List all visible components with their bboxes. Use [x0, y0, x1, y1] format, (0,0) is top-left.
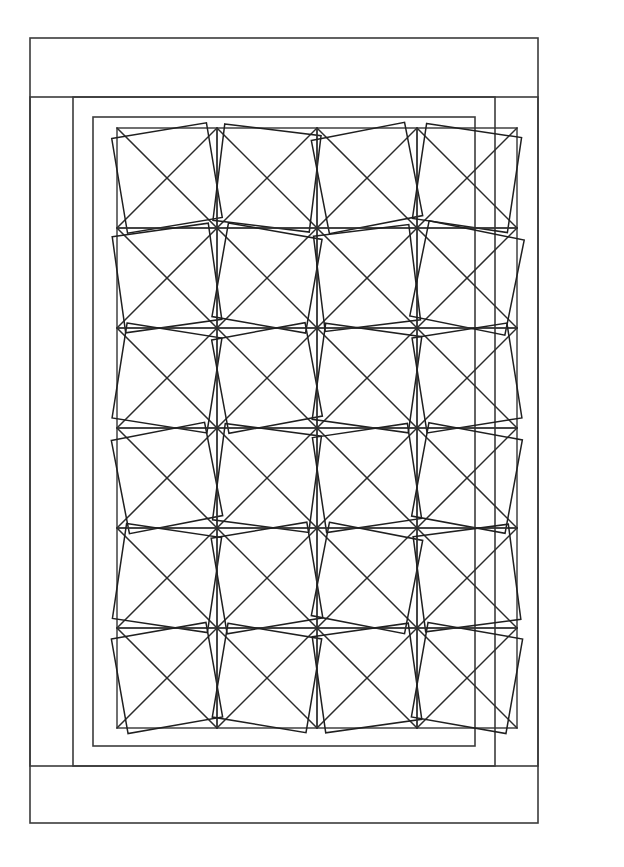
quilt-block: [112, 523, 221, 632]
figure-root: [0, 0, 624, 867]
quilt-block: [413, 524, 521, 632]
quilt-block: [112, 223, 222, 333]
block-grid: [111, 122, 524, 733]
quilt-block: [212, 623, 321, 732]
quilt-block: [312, 423, 421, 532]
quilt-block: [410, 221, 524, 335]
quilt-block: [112, 123, 223, 234]
quilt-block: [412, 423, 523, 534]
quilt-block: [311, 522, 422, 633]
quilt-block: [111, 622, 222, 733]
quilt-block: [314, 225, 421, 332]
quilt-block: [212, 223, 322, 333]
quilt-block: [311, 122, 422, 233]
quilt-block-diagram: [0, 0, 624, 867]
quilt-block: [412, 323, 522, 433]
quilt-block: [213, 124, 321, 232]
quilt-block: [412, 123, 521, 232]
quilt-block: [111, 422, 222, 533]
border-frames: [30, 38, 538, 823]
quilt-block: [211, 522, 323, 634]
outer-border: [30, 38, 538, 823]
quilt-block: [212, 323, 323, 434]
quilt-block: [312, 623, 422, 733]
quilt-block: [112, 323, 222, 433]
quilt-block: [213, 424, 322, 533]
quilt-block: [411, 622, 522, 733]
quilt-block: [312, 323, 422, 433]
